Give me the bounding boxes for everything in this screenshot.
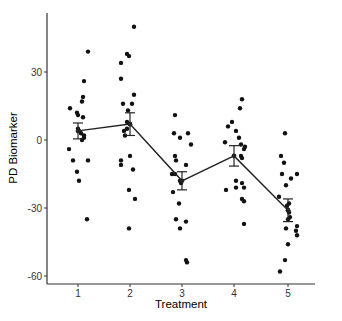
data-point — [279, 154, 283, 158]
data-point — [127, 226, 131, 230]
data-point — [189, 142, 193, 146]
data-point — [295, 233, 299, 237]
data-point — [121, 102, 125, 106]
data-point — [173, 113, 177, 117]
data-point — [230, 120, 234, 124]
data-point — [294, 229, 298, 233]
data-point — [71, 158, 75, 162]
data-point — [184, 219, 188, 223]
data-point — [282, 161, 286, 165]
chart: 300-30-60 12345 Treatment PD Biomarker — [0, 0, 342, 321]
data-point — [283, 131, 287, 135]
x-tick-label: 2 — [127, 288, 133, 299]
data-point — [234, 185, 238, 189]
data-point — [242, 185, 246, 189]
data-point — [240, 97, 244, 101]
data-point — [86, 49, 90, 53]
data-point — [119, 163, 123, 167]
y-tick-label: -30 — [28, 203, 43, 214]
data-point — [173, 154, 177, 158]
data-point — [133, 197, 137, 201]
y-tick-label: 0 — [36, 135, 42, 146]
data-point — [82, 79, 86, 83]
axes — [47, 13, 315, 284]
data-point — [132, 93, 136, 97]
data-point — [81, 95, 85, 99]
data-point — [67, 147, 71, 151]
data-point — [131, 167, 135, 171]
data-point — [234, 179, 238, 183]
data-point — [171, 190, 175, 194]
x-tick-label: 4 — [231, 288, 237, 299]
data-point — [126, 108, 130, 112]
data-point — [278, 269, 282, 273]
data-point — [81, 115, 85, 119]
data-point — [289, 176, 293, 180]
mean-line-with-error-bars — [73, 113, 293, 222]
data-point — [295, 172, 299, 176]
data-point — [127, 188, 131, 192]
data-point — [184, 163, 188, 167]
data-point — [295, 224, 299, 228]
mean-point — [180, 178, 185, 183]
x-tick-label: 1 — [75, 288, 81, 299]
data-point — [277, 195, 281, 199]
y-tick-label: -60 — [28, 271, 43, 282]
data-point — [240, 181, 244, 185]
data-point — [237, 136, 241, 140]
data-point — [240, 156, 244, 160]
data-point — [284, 183, 288, 187]
data-point — [284, 226, 288, 230]
y-axis-title: PD Biomarker — [7, 112, 19, 184]
mean-point — [76, 129, 81, 134]
error-bar — [229, 146, 239, 166]
data-point — [242, 222, 246, 226]
mean-point — [232, 153, 237, 158]
data-point — [242, 147, 246, 151]
data-point — [242, 199, 246, 203]
data-point — [76, 113, 80, 117]
data-point — [283, 258, 287, 262]
data-point — [178, 136, 182, 140]
mean-line — [78, 124, 288, 210]
data-point — [127, 54, 131, 58]
mean-point — [128, 122, 133, 127]
data-point — [226, 124, 230, 128]
data-point — [280, 172, 284, 176]
data-point — [119, 61, 123, 65]
data-point — [174, 158, 178, 162]
data-point — [239, 142, 243, 146]
data-point — [185, 260, 189, 264]
x-axis-ticks: 12345 — [75, 284, 291, 299]
data-point — [80, 99, 84, 103]
data-point — [223, 140, 227, 144]
data-point — [186, 131, 190, 135]
x-tick-label: 5 — [285, 288, 291, 299]
data-point — [122, 129, 126, 133]
data-point — [86, 158, 90, 162]
data-point — [75, 170, 79, 174]
data-point — [132, 25, 136, 29]
data-points — [67, 25, 299, 274]
data-point — [128, 154, 132, 158]
x-axis-title: Treatment — [155, 298, 208, 310]
data-point — [178, 226, 182, 230]
data-point — [172, 131, 176, 135]
data-point — [177, 201, 181, 205]
y-tick-label: 30 — [31, 67, 43, 78]
data-point — [224, 188, 228, 192]
data-point — [77, 179, 81, 183]
data-point — [130, 102, 134, 106]
data-point — [119, 158, 123, 162]
data-point — [85, 217, 89, 221]
y-axis-ticks: 300-30-60 — [28, 67, 47, 282]
data-point — [286, 242, 290, 246]
data-point — [238, 106, 242, 110]
data-point — [174, 217, 178, 221]
mean-point — [286, 208, 291, 213]
data-point — [119, 77, 123, 81]
data-point — [234, 129, 238, 133]
data-point — [68, 106, 72, 110]
